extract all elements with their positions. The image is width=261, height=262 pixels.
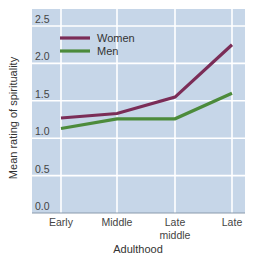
- y-tick-label: 2.0: [35, 50, 50, 62]
- legend-label-men: Men: [97, 45, 118, 57]
- y-tick-label: 0.5: [35, 163, 50, 175]
- legend-label-women: Women: [97, 32, 135, 44]
- y-axis-title: Mean rating of spirituality: [7, 56, 19, 179]
- x-axis-ticks: EarlyMiddleLatemiddleLate: [49, 216, 242, 241]
- y-tick-label: 2.5: [35, 13, 50, 25]
- x-tick-label: middle: [160, 229, 191, 241]
- x-tick-label: Early: [49, 216, 74, 228]
- line-chart: 0.00.51.01.52.02.5 EarlyMiddleLatemiddle…: [0, 0, 261, 262]
- x-tick-label: Late: [165, 216, 186, 228]
- y-tick-label: 1.5: [35, 88, 50, 100]
- x-axis-title: Adulthood: [113, 243, 163, 255]
- y-tick-label: 0.0: [35, 200, 50, 212]
- y-tick-label: 1.0: [35, 125, 50, 137]
- x-tick-label: Late: [222, 216, 243, 228]
- x-tick-label: Middle: [102, 216, 133, 228]
